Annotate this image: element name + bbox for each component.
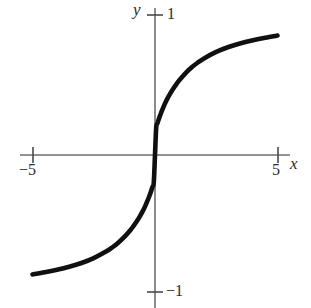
- x-tick-label-neg-5: −5: [19, 162, 36, 178]
- graph-figure: y x 1 −1 −5 5: [0, 0, 311, 308]
- y-axis-label: y: [133, 1, 141, 18]
- y-tick-label-1: 1: [167, 6, 175, 22]
- plot-canvas: [0, 0, 311, 308]
- x-axis-label: x: [290, 155, 298, 172]
- y-tick-label-neg-1: −1: [166, 283, 183, 299]
- x-tick-label-5: 5: [272, 162, 280, 178]
